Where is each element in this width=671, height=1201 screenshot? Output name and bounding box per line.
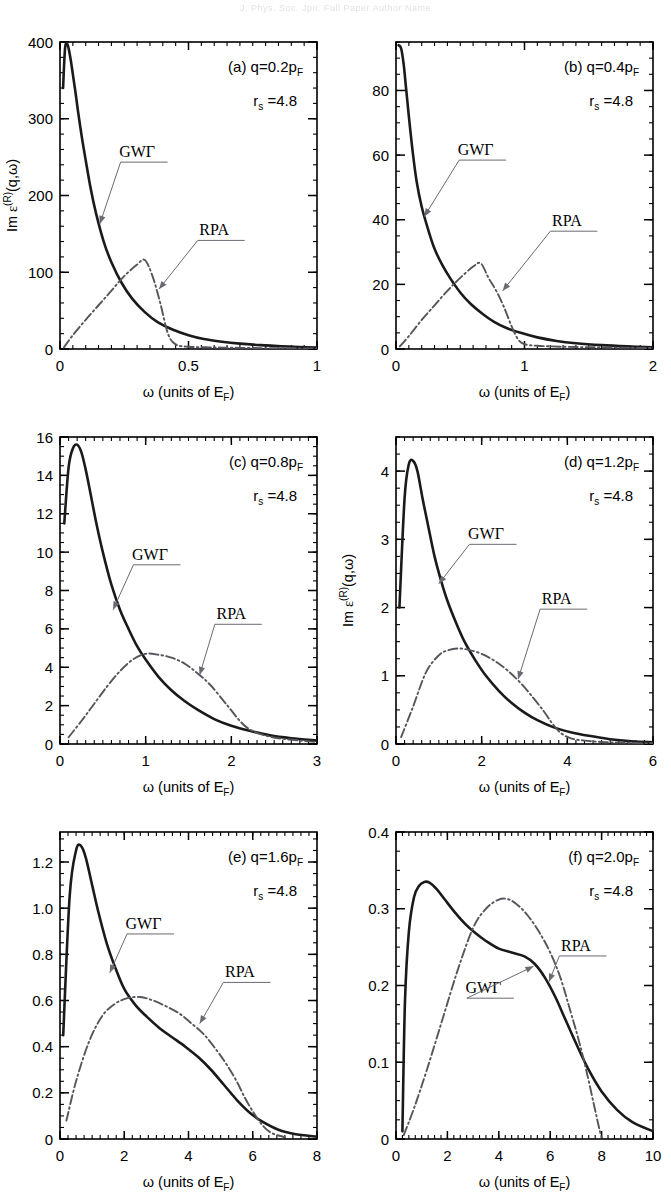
xtick-label: 4 [184, 1147, 192, 1164]
xtick-label: 0 [391, 357, 399, 374]
rs-label-f: rs =4.8 [589, 882, 633, 902]
xtick-label: 6 [648, 752, 656, 769]
rs-label-a: rs =4.8 [253, 92, 297, 112]
y-axis-label-a: Im ε(R)(q,ω) [2, 159, 20, 232]
curve-rpa-d [401, 648, 653, 743]
ytick-label: 0.2 [32, 1084, 53, 1101]
panel-tag-e: (e) q=1.6pF [228, 848, 303, 868]
plot-e: 0246800.20.40.60.81.01.2(e) q=1.6pFrs =4… [0, 806, 335, 1201]
curve-gwgamma-f [402, 882, 653, 1132]
plot-c: 01230246810121416(c) q=0.8pFrs =4.8GWΓRP… [0, 411, 335, 806]
panel-tag-d: (d) q=1.2pF [564, 453, 639, 473]
ytick-label: 1 [380, 667, 388, 684]
plot-frame-e [60, 832, 317, 1139]
annotation-label: RPA [541, 590, 571, 607]
ytick-label: 10 [36, 544, 53, 561]
ytick-label: 4 [45, 659, 53, 676]
xtick-label: 10 [644, 1147, 661, 1164]
y-axis-label-d: Im ε(R)(q,ω) [338, 554, 356, 627]
xtick-label: 0 [391, 1147, 399, 1164]
rs-label-c: rs =4.8 [253, 487, 297, 507]
x-axis-label-c: ω (units of EF) [143, 779, 235, 798]
plot-b: 012020406080(b) q=0.4pFrs =4.8GWΓRPAω (u… [336, 16, 671, 411]
xtick-label: 1 [313, 357, 321, 374]
ytick-label: 6 [45, 620, 53, 637]
plot-frame-b [396, 42, 653, 349]
xtick-label: 0.5 [178, 357, 199, 374]
curve-rpa-f [403, 899, 601, 1138]
xtick-label: 8 [313, 1147, 321, 1164]
xtick-label: 2 [120, 1147, 128, 1164]
plot-f: 024681000.10.20.30.4(f) q=2.0pFrs =4.8RP… [336, 806, 671, 1201]
annotation-rpa-d: RPA [517, 590, 587, 679]
x-axis-label-e: ω (units of EF) [143, 1174, 235, 1193]
ytick-label: 0.4 [368, 824, 389, 841]
xtick-label: 0 [56, 1147, 64, 1164]
ytick-label: 2 [380, 599, 388, 616]
annotation-rpa-e: RPA [200, 963, 271, 1023]
ytick-label: 200 [28, 187, 53, 204]
panel-tag-c: (c) q=0.8pF [229, 453, 303, 473]
panel-c: 01230246810121416(c) q=0.8pFrs =4.8GWΓRP… [0, 411, 336, 806]
ytick-label: 80 [372, 82, 389, 99]
curves-f [402, 882, 653, 1138]
annotation-label: GWΓ [119, 143, 155, 160]
xtick-label: 6 [249, 1147, 257, 1164]
annotation-label: GWΓ [457, 141, 493, 158]
ytick-label: 1.0 [32, 900, 53, 917]
xtick-label: 4 [494, 1147, 502, 1164]
annotation-gwgamma-e: GWΓ [110, 915, 174, 973]
xtick-label: 0 [56, 752, 64, 769]
ytick-label: 0 [380, 736, 388, 753]
annotation-label: RPA [217, 605, 247, 622]
xtick-label: 2 [648, 357, 656, 374]
ytick-label: 16 [36, 429, 53, 446]
annotation-rpa-a: RPA [159, 221, 245, 289]
figure-sheet: J. Phys. Soc. Jpn. Full Paper Author Nam… [0, 0, 671, 1201]
panel-tag-f: (f) q=2.0pF [568, 848, 639, 868]
panel-f: 024681000.10.20.30.4(f) q=2.0pFrs =4.8RP… [336, 806, 671, 1201]
panel-tag-a: (a) q=0.2pF [228, 58, 303, 78]
annotation-label: RPA [552, 212, 582, 229]
plot-frame-d [396, 437, 653, 744]
annotation-label: RPA [561, 937, 591, 954]
annotation-rpa-f: RPA [548, 937, 605, 982]
annotation-rpa-b: RPA [502, 212, 597, 291]
panel-a: 00.510100200300400(a) q=0.2pFrs =4.8GWΓR… [0, 16, 336, 411]
annotation-gwgamma-c: GWΓ [113, 546, 180, 610]
xtick-label: 2 [227, 752, 235, 769]
xtick-label: 0 [391, 752, 399, 769]
xtick-label: 8 [597, 1147, 605, 1164]
page-header-ghost: J. Phys. Soc. Jpn. Full Paper Author Nam… [0, 0, 671, 16]
ytick-label: 0 [45, 736, 53, 753]
ytick-label: 0 [45, 1131, 53, 1148]
ytick-label: 0 [380, 341, 388, 358]
xtick-label: 0 [56, 357, 64, 374]
ytick-label: 2 [45, 697, 53, 714]
annotation-label: GWΓ [465, 979, 501, 996]
ytick-label: 60 [372, 147, 389, 164]
annotation-label: RPA [199, 221, 229, 238]
xtick-label: 2 [477, 752, 485, 769]
ytick-label: 0.2 [368, 977, 389, 994]
panel-grid: 00.510100200300400(a) q=0.2pFrs =4.8GWΓR… [0, 16, 671, 1201]
annotation-gwgamma-f: GWΓ [465, 966, 533, 998]
annotation-label: GWΓ [467, 525, 503, 542]
ytick-label: 100 [28, 264, 53, 281]
x-axis-label-f: ω (units of EF) [478, 1174, 570, 1193]
annotation-gwgamma-b: GWΓ [424, 141, 506, 216]
ytick-label: 0.4 [32, 1038, 53, 1055]
annotation-gwgamma-a: GWΓ [99, 143, 167, 224]
ytick-label: 20 [372, 276, 389, 293]
ytick-label: 12 [36, 505, 53, 522]
plot-frame-a [60, 42, 317, 349]
panel-b: 012020406080(b) q=0.4pFrs =4.8GWΓRPAω (u… [336, 16, 671, 411]
ytick-label: 0.8 [32, 946, 53, 963]
plot-d: 024601234(d) q=1.2pFrs =4.8GWΓRPAω (unit… [336, 411, 671, 806]
annotation-rpa-c: RPA [199, 605, 262, 675]
ytick-label: 4 [380, 463, 388, 480]
annotation-label: GWΓ [132, 546, 168, 563]
panel-e: 0246800.20.40.60.81.01.2(e) q=1.6pFrs =4… [0, 806, 336, 1201]
ytick-label: 0.6 [32, 992, 53, 1009]
x-axis-label-d: ω (units of EF) [478, 779, 570, 798]
